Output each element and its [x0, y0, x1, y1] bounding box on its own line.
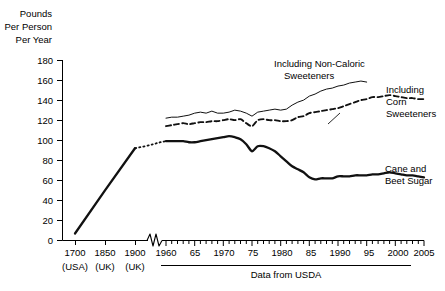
x-tick-label-2005: 2005	[413, 247, 434, 258]
series-historical-cane-path	[75, 148, 135, 233]
axis-break-icon	[147, 234, 162, 246]
y-tick-label-80: 80	[42, 155, 53, 166]
y-tick-label-120: 120	[37, 115, 53, 126]
y-axis-title-line1: Pounds	[20, 8, 52, 19]
y-axis-title-line3: Per Year	[16, 34, 52, 45]
x-tick-label-1970: 1970	[213, 247, 234, 258]
x-tick-label-1900: 1900	[124, 247, 145, 258]
x-tick-label-95: 95	[364, 247, 375, 258]
sugar-consumption-chart: Pounds Per Person Per Year 180 160 140 1…	[0, 0, 445, 291]
series-label-non-caloric-line2: Sweeteners	[284, 70, 334, 81]
y-tick-label-100: 100	[37, 135, 53, 146]
source-note: Data from USDA	[251, 269, 322, 280]
series-including-non-caloric-sweeteners-path	[166, 81, 367, 118]
y-tick-label-160: 160	[37, 75, 53, 86]
x-sublabel-uk-2: (UK)	[125, 261, 145, 272]
x-tick-label-2000: 2000	[387, 247, 408, 258]
y-axis-title-line2: Per Person	[4, 21, 52, 32]
series-label-non-caloric-line1: Including Non-Caloric	[274, 58, 365, 69]
y-tick-label-180: 180	[37, 55, 53, 66]
x-tick-label-1960: 1960	[155, 247, 176, 258]
x-tick-label-1990: 1990	[329, 247, 350, 258]
y-tick-label-60: 60	[42, 175, 53, 186]
x-tick-label-1700: 1700	[64, 247, 85, 258]
x-tick-label-65: 65	[190, 247, 201, 258]
y-tick-label-20: 20	[42, 215, 53, 226]
series-label-cane-line2: Beet Sugar	[385, 175, 433, 186]
x-sublabel-uk-1: (UK)	[95, 261, 115, 272]
x-axis-historical-ticks	[76, 241, 136, 246]
x-tick-label-75: 75	[248, 247, 259, 258]
corn-label-leader	[328, 113, 340, 124]
y-axis-ticks	[57, 61, 63, 241]
series-label-corn-line1: Including	[386, 84, 424, 95]
y-tick-label-40: 40	[42, 195, 53, 206]
series-label-corn-line3: Sweeteners	[386, 108, 436, 119]
y-tick-label-140: 140	[37, 95, 53, 106]
x-sublabel-usa: (USA)	[62, 261, 88, 272]
x-tick-label-1850: 1850	[94, 247, 115, 258]
y-tick-label-0: 0	[48, 235, 53, 246]
chart-svg: Pounds Per Person Per Year 180 160 140 1…	[0, 0, 445, 291]
x-axis-modern-ticks	[166, 241, 424, 247]
series-label-corn-line2: Corn	[386, 96, 407, 107]
series-dotted-link-path	[135, 141, 166, 148]
x-tick-label-85: 85	[306, 247, 317, 258]
series-label-cane-line1: Cane and	[385, 163, 426, 174]
x-tick-label-1980: 1980	[271, 247, 292, 258]
